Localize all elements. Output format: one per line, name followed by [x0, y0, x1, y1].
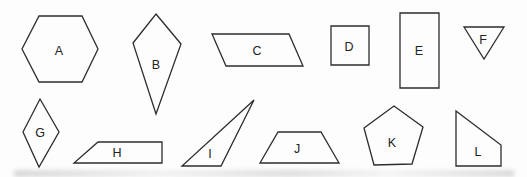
shape-j-label: J	[294, 142, 300, 156]
shape-d-square: D	[331, 26, 369, 65]
shape-l-right-trapezoid-vertical: L	[456, 111, 501, 166]
shape-f-label: F	[479, 33, 487, 47]
shape-a-hexagon: A	[22, 16, 98, 82]
shape-c-parallelogram: C	[212, 34, 303, 66]
shape-i-label: I	[208, 147, 211, 161]
shape-h-label: H	[112, 146, 121, 160]
shape-b-kite: B	[133, 14, 181, 114]
shape-k-pentagon: K	[364, 106, 423, 165]
shape-i-scalene-triangle: I	[182, 100, 254, 166]
shape-i-outline	[182, 100, 254, 166]
shape-j-isosceles-trapezoid: J	[260, 132, 339, 163]
shape-b-label: B	[152, 58, 160, 72]
shape-d-label: D	[344, 40, 353, 54]
shape-k-label: K	[388, 136, 397, 150]
shapes-figure: ABCDEFGHIJKL	[0, 0, 527, 177]
shape-c-label: C	[252, 44, 261, 58]
shape-e-rectangle: E	[400, 13, 439, 88]
shape-l-label: L	[475, 145, 482, 159]
shapes-canvas: ABCDEFGHIJKL	[0, 0, 527, 177]
shape-a-label: A	[55, 44, 64, 58]
shape-e-label: E	[415, 44, 423, 58]
shape-g-rhombus: G	[23, 99, 59, 167]
shape-h-right-trapezoid: H	[74, 142, 162, 163]
shape-f-triangle-down: F	[464, 27, 504, 59]
shape-g-label: G	[35, 126, 45, 140]
